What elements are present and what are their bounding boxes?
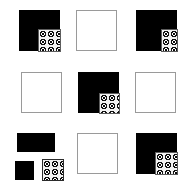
- dotted-patch-r1c3: [161, 29, 178, 52]
- matrix-cell-r2c2[interactable]: [78, 72, 119, 113]
- matrix-cell-r3c3[interactable]: [136, 133, 177, 174]
- matrix-cell-r1c1[interactable]: [19, 10, 60, 51]
- matrix-cell-r3c1[interactable]: [15, 133, 65, 185]
- matrix-cell-r3c2[interactable]: [77, 133, 118, 174]
- matrix-cell-r2c3[interactable]: [135, 72, 176, 113]
- exploded-piece-top-bar: [17, 133, 55, 152]
- exploded-piece-bottom-left-block: [15, 161, 34, 180]
- matrix-cell-r1c3[interactable]: [136, 10, 177, 51]
- exploded-piece-dotted-patch: [42, 159, 64, 181]
- matrix-cell-r2c1[interactable]: [21, 72, 62, 113]
- dotted-patch-r3c3: [155, 152, 178, 175]
- figure-canvas: [0, 0, 191, 188]
- matrix-cell-r1c2[interactable]: [76, 10, 117, 51]
- dotted-patch-r2c2: [99, 93, 120, 114]
- dotted-patch-r1c1: [38, 29, 61, 52]
